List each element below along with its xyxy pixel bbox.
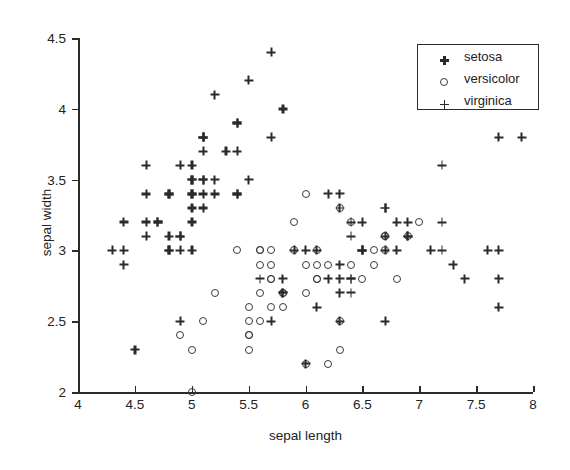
data-point-virginica	[403, 232, 412, 241]
data-point-setosa	[108, 246, 117, 255]
legend: setosa versicolor virginica	[417, 44, 539, 110]
data-point-setosa	[187, 218, 196, 227]
y-tick-label: 2	[36, 385, 66, 400]
data-point-virginica	[176, 317, 185, 326]
data-point-setosa	[165, 232, 174, 241]
y-tick-label: 4	[36, 101, 66, 116]
data-point-setosa	[199, 175, 208, 184]
data-point-virginica	[335, 260, 344, 269]
x-tick	[533, 386, 535, 392]
data-point-versicolor	[256, 261, 264, 269]
data-point-virginica	[392, 218, 401, 227]
data-point-versicolor	[370, 246, 378, 254]
data-point-virginica	[301, 246, 310, 255]
data-point-setosa	[119, 218, 128, 227]
data-point-setosa	[176, 161, 185, 170]
data-point-virginica	[301, 359, 310, 368]
data-point-setosa	[221, 147, 230, 156]
data-point-virginica	[256, 274, 265, 283]
data-point-versicolor	[290, 218, 298, 226]
data-point-setosa	[187, 189, 196, 198]
x-tick-label: 4.5	[125, 397, 144, 412]
data-point-setosa	[244, 76, 253, 85]
data-point-virginica	[438, 161, 447, 170]
data-point-virginica	[324, 274, 333, 283]
data-point-virginica	[324, 189, 333, 198]
data-point-versicolor	[324, 360, 332, 368]
data-point-virginica	[460, 274, 469, 283]
data-point-virginica	[426, 246, 435, 255]
data-point-virginica	[290, 246, 299, 255]
data-point-setosa	[165, 246, 174, 255]
data-point-versicolor	[336, 346, 344, 354]
y-tick-label: 4.5	[36, 31, 66, 46]
data-point-virginica	[335, 203, 344, 212]
data-point-virginica	[347, 274, 356, 283]
data-point-virginica	[335, 288, 344, 297]
data-point-versicolor	[415, 218, 423, 226]
data-point-setosa	[199, 189, 208, 198]
data-point-setosa	[187, 161, 196, 170]
data-point-setosa	[187, 246, 196, 255]
data-point-versicolor	[267, 246, 275, 254]
data-point-versicolor	[211, 289, 219, 297]
data-point-virginica	[517, 133, 526, 142]
data-point-versicolor	[256, 246, 264, 254]
data-point-setosa	[278, 104, 287, 113]
data-point-virginica	[278, 288, 287, 297]
data-point-virginica	[381, 203, 390, 212]
legend-item-virginica: virginica	[418, 89, 538, 111]
data-point-setosa	[267, 48, 276, 57]
data-point-virginica	[358, 218, 367, 227]
data-point-setosa	[119, 246, 128, 255]
data-point-versicolor	[313, 275, 321, 283]
data-point-virginica	[335, 317, 344, 326]
legend-label-virginica: virginica	[464, 93, 512, 108]
data-point-versicolor	[245, 331, 253, 339]
data-point-virginica	[335, 274, 344, 283]
data-point-virginica	[347, 232, 356, 241]
data-point-virginica	[494, 246, 503, 255]
data-point-setosa	[142, 189, 151, 198]
data-point-virginica	[449, 260, 458, 269]
x-tick-label: 8	[529, 397, 537, 412]
data-point-setosa	[119, 260, 128, 269]
scatter-plot-figure: 44.555.566.577.58 22.533.544.5 sepal len…	[0, 0, 570, 470]
data-point-virginica	[312, 246, 321, 255]
data-point-virginica	[494, 274, 503, 283]
data-point-setosa	[165, 189, 174, 198]
x-tick-label: 6.5	[353, 397, 372, 412]
data-point-versicolor	[393, 275, 401, 283]
data-point-versicolor	[302, 261, 310, 269]
legend-label-versicolor: versicolor	[464, 71, 520, 86]
data-point-versicolor	[370, 261, 378, 269]
data-point-setosa	[142, 218, 151, 227]
setosa-marker-icon	[440, 56, 449, 65]
data-point-virginica	[312, 303, 321, 312]
data-point-setosa	[233, 147, 242, 156]
data-point-setosa	[233, 189, 242, 198]
data-point-versicolor	[267, 261, 275, 269]
versicolor-marker-icon	[440, 78, 448, 86]
data-point-virginica	[483, 246, 492, 255]
data-point-setosa	[142, 161, 151, 170]
data-point-setosa	[142, 232, 151, 241]
x-tick-label: 6	[302, 397, 310, 412]
data-point-versicolor	[233, 246, 241, 254]
x-tick-label: 5.5	[239, 397, 258, 412]
data-point-versicolor	[176, 331, 184, 339]
legend-item-setosa: setosa	[418, 45, 538, 67]
data-point-virginica	[381, 246, 390, 255]
data-point-versicolor	[256, 317, 264, 325]
data-point-virginica	[347, 218, 356, 227]
data-point-setosa	[176, 232, 185, 241]
data-point-setosa	[210, 189, 219, 198]
data-point-virginica	[335, 189, 344, 198]
y-axis-label: sepal width	[39, 163, 54, 283]
data-point-versicolor	[199, 317, 207, 325]
data-point-virginica	[494, 133, 503, 142]
data-point-virginica	[392, 246, 401, 255]
x-axis-label: sepal length	[78, 428, 533, 443]
data-point-setosa	[130, 345, 139, 354]
data-point-setosa	[199, 147, 208, 156]
